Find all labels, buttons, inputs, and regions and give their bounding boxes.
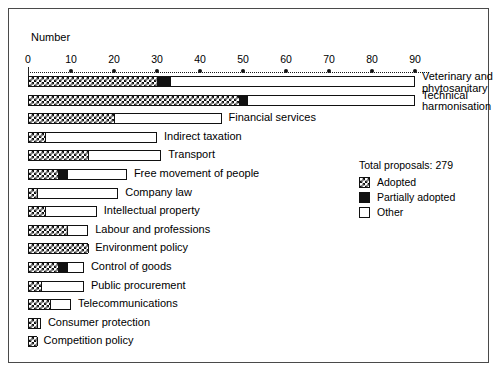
- legend-swatch-partial: [359, 192, 370, 203]
- stacked-bar[interactable]: [28, 132, 157, 143]
- bar-row[interactable]: Competition policy: [28, 336, 177, 347]
- x-tick-label-0: 0: [25, 53, 31, 65]
- bar-segment-adopted: [29, 133, 46, 142]
- stacked-bar[interactable]: [28, 281, 84, 292]
- bar-category-label: Labour and professions: [95, 223, 210, 235]
- x-tick-label-80: 80: [366, 53, 378, 65]
- x-tick-dot-70: [327, 69, 331, 73]
- legend-item: Partially adopted: [359, 191, 479, 203]
- legend-total-proposals: Total proposals: 279: [359, 159, 479, 171]
- bar-row[interactable]: Free movement of people: [28, 169, 267, 180]
- bar-segment-adopted: [29, 263, 59, 272]
- stacked-bar[interactable]: [28, 150, 161, 161]
- stacked-bar[interactable]: [28, 169, 127, 180]
- bar-category-label: Company law: [125, 186, 192, 198]
- legend-label: Adopted: [377, 176, 416, 188]
- chart-legend: Total proposals: 279 AdoptedPartially ad…: [359, 159, 479, 221]
- bar-category-label: Financial services: [229, 111, 316, 123]
- bar-row[interactable]: Financial services: [28, 113, 362, 124]
- bar-row[interactable]: Intellectual property: [28, 206, 237, 217]
- x-tick-dot-40: [198, 69, 202, 73]
- bar-category-label: Consumer protection: [48, 316, 150, 328]
- x-tick-dot-80: [370, 69, 374, 73]
- bar-row[interactable]: Control of goods: [28, 262, 224, 273]
- bar-segment-adopted: [29, 114, 115, 123]
- bar-row[interactable]: Public procurement: [28, 281, 224, 292]
- bar-segment-adopted: [29, 319, 38, 328]
- x-tick-label-30: 30: [151, 53, 163, 65]
- bar-row[interactable]: Veterinary and phytosanitary: [28, 76, 501, 87]
- bar-segment-partially-adopted: [59, 170, 68, 179]
- axis-title: Number: [31, 31, 70, 43]
- bar-segment-adopted: [29, 282, 42, 291]
- legend-label: Partially adopted: [377, 191, 455, 203]
- bar-segment-adopted: [29, 244, 89, 253]
- bar-category-label: Free movement of people: [134, 167, 259, 179]
- bar-category-label: Intellectual property: [104, 204, 200, 216]
- stacked-bar[interactable]: [28, 336, 37, 347]
- x-tick-label-10: 10: [65, 53, 77, 65]
- bar-segment-adopted: [29, 189, 38, 198]
- stacked-bar[interactable]: [28, 95, 415, 106]
- bar-row[interactable]: Environment policy: [28, 243, 228, 254]
- bar-segment-adopted: [29, 226, 68, 235]
- x-tick-dot-50: [241, 69, 245, 73]
- bar-category-label: Control of goods: [91, 260, 172, 272]
- axis-dotted-rule: [28, 72, 429, 73]
- bar-segment-adopted: [29, 337, 38, 346]
- bar-category-label: Competition policy: [44, 334, 134, 346]
- bar-category-label: Indirect taxation: [164, 130, 242, 142]
- bar-row[interactable]: Consumer protection: [28, 318, 181, 329]
- x-tick-label-40: 40: [194, 53, 206, 65]
- bar-segment-partially-adopted: [240, 96, 249, 105]
- bar-row[interactable]: Technical harmonisation: [28, 95, 501, 106]
- legend-swatch-other: [359, 207, 370, 218]
- x-tick-label-20: 20: [108, 53, 120, 65]
- x-tick-dot-10: [69, 69, 73, 73]
- x-tick-dot-30: [155, 69, 159, 73]
- bar-segment-adopted: [29, 300, 51, 309]
- bar-category-label: Public procurement: [91, 279, 186, 291]
- bar-row[interactable]: Labour and professions: [28, 225, 228, 236]
- bar-row[interactable]: Company law: [28, 188, 258, 199]
- stacked-bar[interactable]: [28, 262, 84, 273]
- stacked-bar[interactable]: [28, 113, 222, 124]
- bar-segment-adopted: [29, 77, 158, 86]
- x-tick-dot-20: [112, 69, 116, 73]
- legend-swatch-adopted: [359, 177, 370, 188]
- stacked-bar[interactable]: [28, 188, 118, 199]
- bar-category-label: Transport: [168, 148, 215, 160]
- bar-segment-adopted: [29, 170, 59, 179]
- bar-segment-adopted: [29, 207, 46, 216]
- bar-segment-partially-adopted: [59, 263, 68, 272]
- legend-label: Other: [377, 206, 403, 218]
- x-tick-label-70: 70: [323, 53, 335, 65]
- stacked-bar[interactable]: [28, 225, 88, 236]
- bar-category-label: Telecommunications: [78, 297, 178, 309]
- bar-row[interactable]: Telecommunications: [28, 299, 211, 310]
- bar-segment-adopted: [29, 96, 240, 105]
- bar-segment-adopted: [29, 151, 89, 160]
- chart-frame: Number 0102030405060708090 Veterinary an…: [8, 8, 489, 363]
- legend-item: Other: [359, 206, 479, 218]
- stacked-bar[interactable]: [28, 76, 415, 87]
- stacked-bar[interactable]: [28, 206, 97, 217]
- x-tick-label-60: 60: [280, 53, 292, 65]
- bar-category-label: Environment policy: [95, 241, 188, 253]
- bar-row[interactable]: Indirect taxation: [28, 132, 297, 143]
- x-tick-dot-90: [413, 69, 417, 73]
- stacked-bar[interactable]: [28, 318, 41, 329]
- bar-category-label: Technical harmonisation: [422, 90, 501, 113]
- stacked-bar[interactable]: [28, 299, 71, 310]
- x-tick-dot-60: [284, 69, 288, 73]
- x-tick-label-50: 50: [237, 53, 249, 65]
- bar-row[interactable]: Transport: [28, 150, 301, 161]
- x-tick-label-90: 90: [409, 53, 421, 65]
- legend-item: Adopted: [359, 176, 479, 188]
- stacked-bar[interactable]: [28, 243, 88, 254]
- x-axis-tick-labels: 0102030405060708090: [9, 53, 488, 67]
- bar-segment-partially-adopted: [158, 77, 171, 86]
- x-axis-dotted-line: [28, 69, 429, 76]
